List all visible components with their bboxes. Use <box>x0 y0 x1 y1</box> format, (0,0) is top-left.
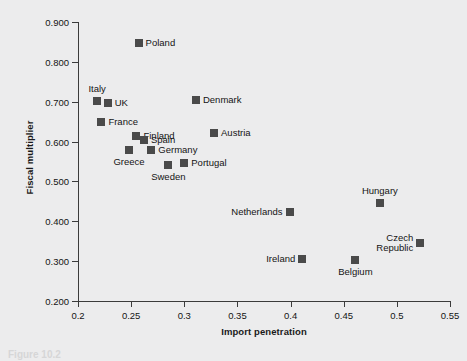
x-axis-tick-label: 0.3 <box>178 310 191 321</box>
x-axis-title: Import penetration <box>78 326 450 337</box>
data-point-marker[interactable] <box>192 96 200 104</box>
y-axis-tick-mark <box>72 22 78 23</box>
data-point-marker[interactable] <box>93 97 101 105</box>
y-axis-tick-label: 0.300 <box>45 256 69 267</box>
x-axis-tick-mark <box>450 301 451 307</box>
data-point-label: UK <box>115 97 128 108</box>
data-point-label: Sweden <box>151 172 185 183</box>
data-point-label: Portugal <box>191 158 226 169</box>
x-axis-tick-label: 0.2 <box>71 310 84 321</box>
data-point-marker[interactable] <box>140 136 148 144</box>
data-point-marker[interactable] <box>135 39 143 47</box>
data-point-label: Belgium <box>338 267 372 278</box>
x-axis-tick-label: 0.4 <box>284 310 297 321</box>
y-axis-tick-mark <box>72 181 78 182</box>
data-point-label: Netherlands <box>231 207 282 218</box>
plot-area: 0.2000.3000.4000.5000.6000.7000.8000.900… <box>78 22 450 301</box>
data-point-marker[interactable] <box>376 199 384 207</box>
x-axis-tick-mark <box>344 301 345 307</box>
data-point-marker[interactable] <box>210 129 218 137</box>
y-axis-tick-label: 0.900 <box>45 17 69 28</box>
data-point-label: Czech Republic <box>361 232 413 253</box>
data-point-label: Austria <box>221 128 251 139</box>
y-axis-tick-label: 0.400 <box>45 216 69 227</box>
data-point-label: Hungary <box>362 185 398 196</box>
data-point-marker[interactable] <box>286 208 294 216</box>
y-axis-tick-label: 0.200 <box>45 296 69 307</box>
data-point-marker[interactable] <box>164 161 172 169</box>
data-point-marker[interactable] <box>125 146 133 154</box>
x-axis-tick-label: 0.45 <box>334 310 353 321</box>
data-point-label: Poland <box>146 37 176 48</box>
x-axis-tick-label: 0.35 <box>228 310 247 321</box>
data-point-label: Denmark <box>203 95 242 106</box>
data-point-label: Greece <box>113 157 144 168</box>
data-point-label: France <box>108 117 138 128</box>
data-point-marker[interactable] <box>180 159 188 167</box>
data-point-label: Ireland <box>266 254 295 265</box>
x-axis-tick-mark <box>184 301 185 307</box>
x-axis-tick-mark <box>78 301 79 307</box>
data-point-marker[interactable] <box>298 255 306 263</box>
y-axis-tick-label: 0.600 <box>45 136 69 147</box>
x-axis-tick-label: 0.55 <box>441 310 460 321</box>
x-axis-tick-mark <box>397 301 398 307</box>
data-point-marker[interactable] <box>97 118 105 126</box>
y-axis-tick-label: 0.800 <box>45 56 69 67</box>
x-axis-tick-mark <box>237 301 238 307</box>
data-point-marker[interactable] <box>416 239 424 247</box>
data-point-label: Germany <box>158 145 197 156</box>
y-axis-tick-mark <box>72 221 78 222</box>
y-axis-tick-mark <box>72 261 78 262</box>
y-axis-tick-mark <box>72 142 78 143</box>
x-axis-tick-mark <box>131 301 132 307</box>
x-axis-line <box>78 301 451 302</box>
figure-caption: Figure 10.2 <box>8 349 61 360</box>
x-axis-tick-label: 0.5 <box>390 310 403 321</box>
data-point-marker[interactable] <box>147 146 155 154</box>
x-axis-tick-label: 0.25 <box>122 310 141 321</box>
data-point-marker[interactable] <box>351 256 359 264</box>
data-point-label: Italy <box>88 83 105 94</box>
y-axis-tick-mark <box>72 62 78 63</box>
data-point-marker[interactable] <box>104 99 112 107</box>
y-axis-tick-label: 0.500 <box>45 176 69 187</box>
y-axis-tick-label: 0.700 <box>45 96 69 107</box>
y-axis-title: Fiscal multiplier <box>24 78 35 238</box>
y-axis-tick-mark <box>72 102 78 103</box>
x-axis-tick-mark <box>291 301 292 307</box>
scatter-chart-figure: Fiscal multiplier Import penetration 0.2… <box>0 0 467 361</box>
